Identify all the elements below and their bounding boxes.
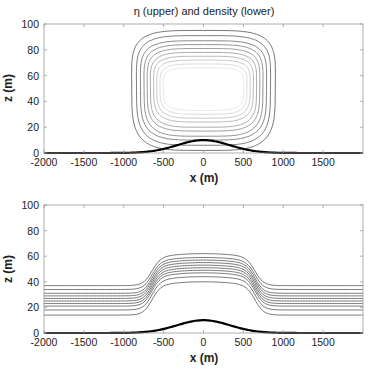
x-tick-label: -1500 — [70, 336, 97, 348]
x-tick-label: 1500 — [311, 336, 335, 348]
eta-contour-line — [147, 49, 260, 132]
density-contours — [44, 254, 363, 315]
x-tick-label: 500 — [235, 156, 253, 168]
x-tick-label: 500 — [235, 336, 253, 348]
x-tick-label: -500 — [153, 336, 174, 348]
y-tick-label: 60 — [27, 250, 39, 262]
x-tick-label: 1000 — [272, 156, 296, 168]
y-tick-label: 20 — [27, 121, 39, 133]
plot-frame — [44, 24, 363, 153]
y-axis-ticks: 020406080100 — [21, 18, 363, 159]
upper-plot: η (upper) and density (lower) -2000-1500… — [1, 5, 363, 185]
x-tick-label: -1000 — [110, 156, 137, 168]
eta-contour-line — [157, 60, 250, 118]
y-axis-ticks: 020406080100 — [21, 199, 363, 339]
lower-plot: -2000-1500-1000-500050010001500 02040608… — [1, 199, 363, 365]
y-axis-label: z (m) — [1, 74, 15, 102]
isopycnal-line — [44, 254, 363, 286]
y-axis-label: z (m) — [1, 255, 15, 283]
x-tick-label: -500 — [153, 156, 174, 168]
x-axis-label: x (m) — [190, 171, 219, 185]
x-tick-label: 1500 — [311, 156, 335, 168]
x-axis-ticks: -2000-1500-1000-500050010001500 — [31, 24, 335, 168]
y-tick-label: 80 — [27, 225, 39, 237]
x-axis-label: x (m) — [190, 351, 219, 365]
y-tick-label: 100 — [21, 199, 39, 211]
y-tick-label: 0 — [33, 327, 39, 339]
plot-frame — [44, 205, 363, 333]
figure: η (upper) and density (lower) -2000-1500… — [0, 0, 378, 377]
x-tick-label: 1000 — [272, 336, 296, 348]
y-tick-label: 40 — [27, 276, 39, 288]
y-tick-label: 0 — [33, 147, 39, 159]
x-tick-label: -1000 — [110, 336, 137, 348]
x-tick-label: 0 — [201, 156, 207, 168]
y-tick-label: 100 — [21, 18, 39, 30]
eta-contours — [132, 30, 276, 150]
x-axis-ticks: -2000-1500-1000-500050010001500 — [31, 205, 335, 348]
x-tick-label: -1500 — [70, 156, 97, 168]
y-tick-label: 40 — [27, 95, 39, 107]
y-tick-label: 80 — [27, 44, 39, 56]
eta-contour-line — [140, 41, 266, 140]
plot-title: η (upper) and density (lower) — [134, 5, 275, 17]
eta-contour-line — [160, 64, 247, 114]
y-tick-label: 60 — [27, 70, 39, 82]
x-tick-label: 0 — [201, 336, 207, 348]
y-tick-label: 20 — [27, 301, 39, 313]
eta-contour-line — [163, 68, 244, 111]
